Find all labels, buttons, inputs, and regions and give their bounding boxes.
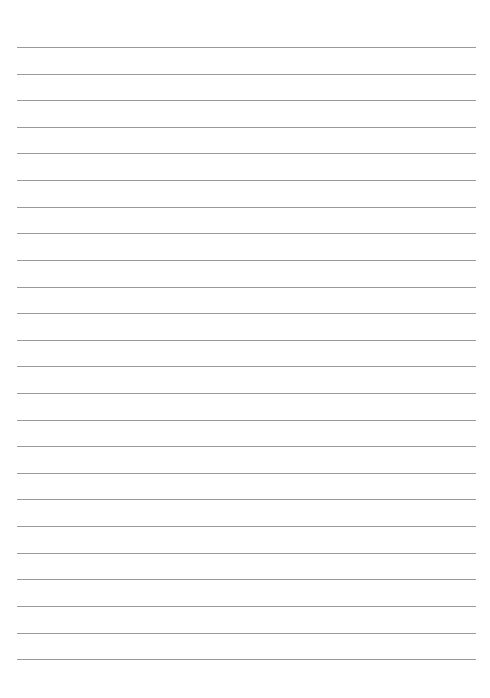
- ruled-line: [17, 180, 476, 181]
- ruled-line: [17, 526, 476, 527]
- ruled-line: [17, 579, 476, 580]
- ruled-line: [17, 393, 476, 394]
- ruled-line: [17, 74, 476, 75]
- ruled-line: [17, 127, 476, 128]
- ruled-line: [17, 633, 476, 634]
- ruled-line: [17, 207, 476, 208]
- ruled-line: [17, 553, 476, 554]
- ruled-line: [17, 340, 476, 341]
- ruled-line: [17, 153, 476, 154]
- ruled-line: [17, 446, 476, 447]
- ruled-line: [17, 420, 476, 421]
- ruled-line: [17, 659, 476, 660]
- ruled-line: [17, 366, 476, 367]
- ruled-line: [17, 606, 476, 607]
- ruled-line: [17, 313, 476, 314]
- ruled-line: [17, 287, 476, 288]
- ruled-line: [17, 473, 476, 474]
- lined-paper-page: [0, 0, 490, 698]
- ruled-line: [17, 47, 476, 48]
- ruled-line: [17, 260, 476, 261]
- ruled-line: [17, 499, 476, 500]
- ruled-line: [17, 233, 476, 234]
- ruled-line: [17, 100, 476, 101]
